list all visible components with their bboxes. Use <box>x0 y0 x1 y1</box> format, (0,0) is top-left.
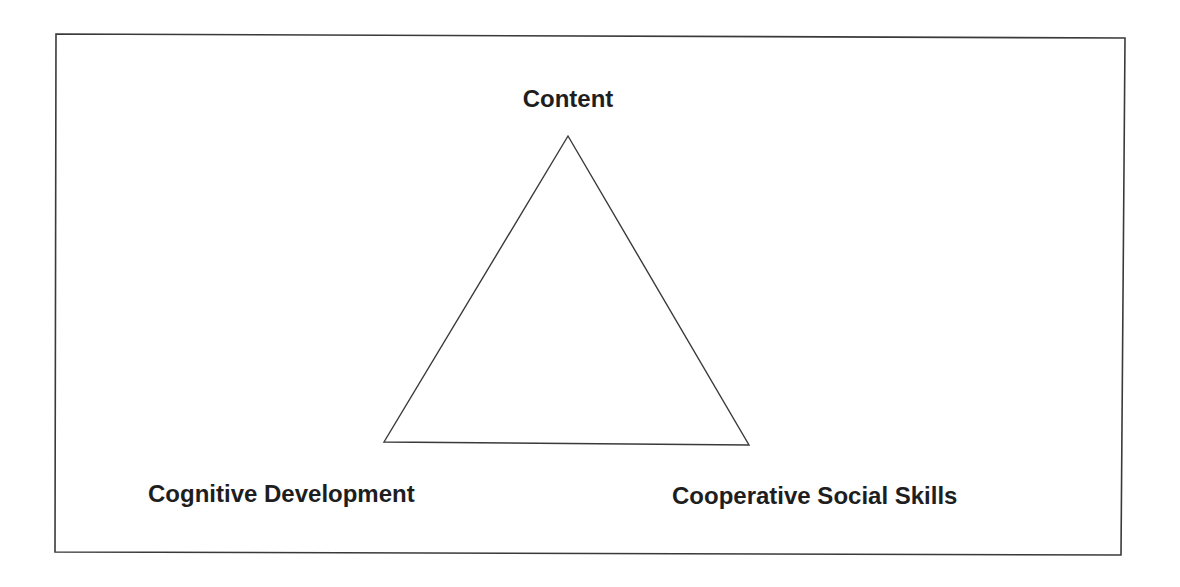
triangle <box>384 136 749 445</box>
frame-border <box>55 34 1125 555</box>
vertex-label-cooperative-social-skills: Cooperative Social Skills <box>672 482 957 509</box>
triangle-diagram: Content Cognitive Development Cooperativ… <box>0 0 1180 587</box>
vertex-label-cognitive-development: Cognitive Development <box>148 480 415 507</box>
vertex-label-content: Content <box>523 85 614 112</box>
